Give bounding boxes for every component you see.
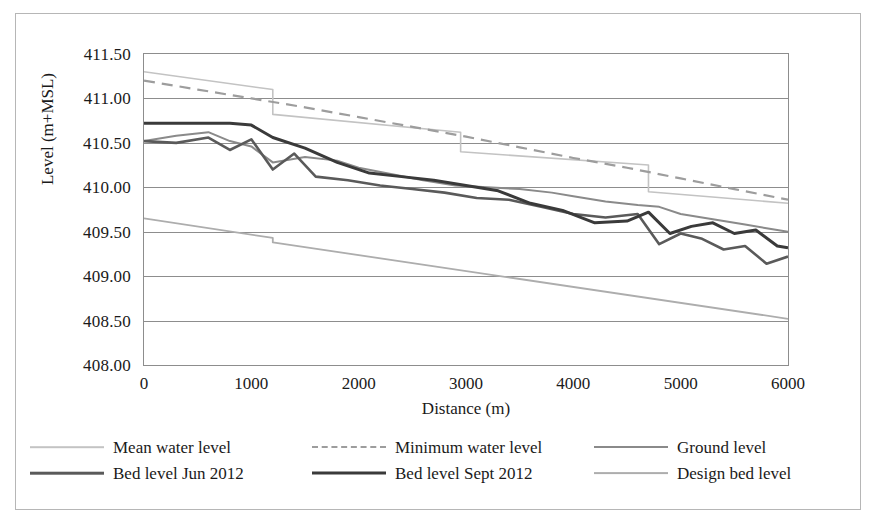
series-line-bed-level-sept-2012 <box>144 123 788 247</box>
x-tick-label: 4000 <box>528 375 618 392</box>
series-line-design-bed-level <box>144 218 788 318</box>
series-line-ground-level <box>144 132 788 232</box>
legend-label-bed-level-jun-2012: Bed level Jun 2012 <box>113 464 244 483</box>
legend-label-mean-water-level: Mean water level <box>113 438 231 457</box>
chart-figure: Level (m+MSL) 411.50411.00410.50410.0040… <box>15 13 861 510</box>
legend-row: Bed level Jun 2012Bed level Sept 2012Des… <box>16 460 862 486</box>
x-tick-label: 2000 <box>314 375 404 392</box>
legend-swatch-mean-water-level <box>30 442 104 452</box>
legend-label-bed-level-sept-2012: Bed level Sept 2012 <box>395 464 532 483</box>
x-tick-label: 1000 <box>206 375 296 392</box>
legend-item-ground-level[interactable]: Ground level <box>580 438 862 457</box>
legend-label-ground-level: Ground level <box>677 438 766 457</box>
legend-item-design-bed-level[interactable]: Design bed level <box>580 464 862 483</box>
y-tick-label: 408.00 <box>21 357 131 374</box>
legend-swatch-bed-level-sept-2012 <box>312 468 386 478</box>
legend-item-bed-level-sept-2012[interactable]: Bed level Sept 2012 <box>298 464 580 483</box>
series-line-minimum-water-level <box>144 81 788 200</box>
legend-item-mean-water-level[interactable]: Mean water level <box>16 438 298 457</box>
legend-swatch-design-bed-level <box>594 468 668 478</box>
y-tick-label: 408.50 <box>21 313 131 330</box>
y-tick-label: 410.00 <box>21 179 131 196</box>
x-tick-label: 6000 <box>743 375 833 392</box>
x-tick-label: 0 <box>99 375 189 392</box>
legend-item-bed-level-jun-2012[interactable]: Bed level Jun 2012 <box>16 464 298 483</box>
y-tick-label: 411.00 <box>21 90 131 107</box>
y-tick-label: 409.50 <box>21 224 131 241</box>
gridline <box>144 365 788 366</box>
y-axis-label-wrapper: Level (m+MSL) <box>40 94 62 334</box>
y-tick-label: 411.50 <box>21 46 131 63</box>
legend-item-minimum-water-level[interactable]: Minimum water level <box>298 438 580 457</box>
series-line-bed-level-jun-2012 <box>144 138 788 264</box>
legend-swatch-bed-level-jun-2012 <box>30 468 104 478</box>
legend-swatch-minimum-water-level <box>312 442 386 452</box>
legend-row: Mean water levelMinimum water levelGroun… <box>16 434 862 460</box>
x-tick-label: 5000 <box>636 375 726 392</box>
chart-legend: Mean water levelMinimum water levelGroun… <box>16 434 862 504</box>
legend-label-design-bed-level: Design bed level <box>677 464 791 483</box>
legend-label-minimum-water-level: Minimum water level <box>395 438 542 457</box>
legend-swatch-ground-level <box>594 442 668 452</box>
x-axis-label: Distance (m) <box>143 399 789 419</box>
x-tick-label: 3000 <box>421 375 511 392</box>
y-tick-label: 409.00 <box>21 268 131 285</box>
series-lines <box>144 54 788 365</box>
y-tick-label: 410.50 <box>21 135 131 152</box>
chart-plot-area: Level (m+MSL) 411.50411.00410.50410.0040… <box>16 14 862 432</box>
